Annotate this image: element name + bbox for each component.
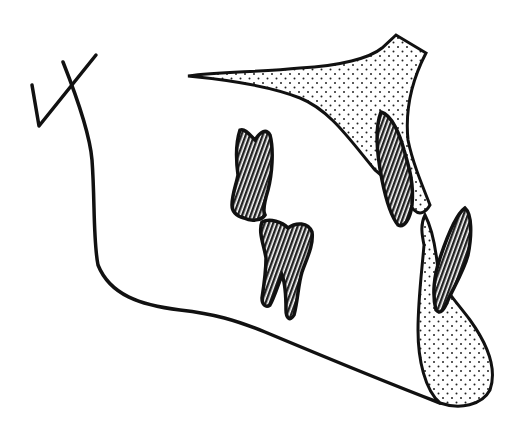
upper-molar bbox=[232, 130, 272, 220]
dental-diagram bbox=[0, 0, 522, 429]
lower-molar bbox=[261, 220, 313, 318]
diagram-svg bbox=[0, 0, 522, 429]
